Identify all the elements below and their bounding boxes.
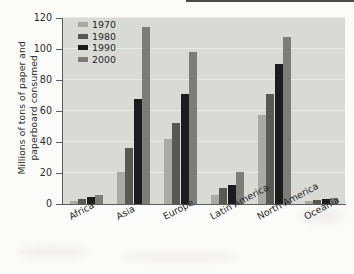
legend-item-1990: 1990: [78, 43, 116, 52]
legend-label-1990: 1990: [92, 43, 116, 52]
bar-latin-america-1970: [211, 195, 219, 204]
legend: 1970198019902000: [78, 20, 116, 64]
y-tick-mark: [56, 80, 62, 81]
y-tick-mark: [56, 173, 62, 174]
legend-label-2000: 2000: [92, 55, 116, 64]
y-tick-mark: [56, 204, 62, 205]
legend-item-1980: 1980: [78, 32, 116, 41]
bar-asia-1980: [125, 148, 133, 204]
legend-label-1980: 1980: [92, 32, 116, 41]
y-tick-mark: [56, 111, 62, 112]
y-tick-label: 100: [12, 43, 52, 54]
y-tick-mark: [56, 142, 62, 143]
gridline: [63, 79, 345, 80]
bar-europe-1990: [181, 94, 189, 204]
bar-chart: Millions of tons of paper and paperboard…: [0, 0, 354, 274]
gridline: [63, 110, 345, 111]
legend-swatch-2000: [78, 57, 88, 62]
x-axis-label-asia: Asia: [114, 203, 137, 222]
bar-asia-2000: [142, 27, 150, 204]
gridline: [63, 141, 345, 142]
y-tick-label: 60: [12, 105, 52, 116]
y-tick-label: 120: [12, 12, 52, 23]
y-tick-label: 0: [12, 198, 52, 209]
legend-label-1970: 1970: [92, 20, 116, 29]
bar-europe-1970: [164, 139, 172, 204]
y-tick-mark: [56, 49, 62, 50]
bar-europe-1980: [172, 123, 180, 204]
bar-north-america-2000: [283, 37, 291, 204]
y-tick-mark: [56, 18, 62, 19]
bar-asia-1990: [134, 99, 142, 204]
legend-swatch-1990: [78, 45, 88, 50]
bar-north-america-1990: [275, 64, 283, 204]
legend-swatch-1980: [78, 34, 88, 39]
x-axis-line: [56, 204, 346, 205]
y-axis-line: [62, 18, 63, 205]
gridline: [63, 17, 345, 18]
y-tick-label: 80: [12, 74, 52, 85]
bar-europe-2000: [189, 52, 197, 204]
y-tick-label: 40: [12, 136, 52, 147]
legend-swatch-1970: [78, 22, 88, 27]
y-tick-label: 20: [12, 167, 52, 178]
bar-asia-1970: [117, 172, 125, 204]
legend-item-2000: 2000: [78, 55, 116, 64]
gridline: [63, 172, 345, 173]
bar-africa-2000: [95, 195, 103, 204]
legend-item-1970: 1970: [78, 20, 116, 29]
